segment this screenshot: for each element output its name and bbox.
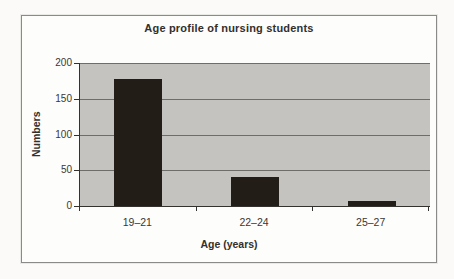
- chart-frame: Age profile of nursing students Numbers …: [21, 15, 437, 263]
- x-category-label-25-27: 25–27: [312, 216, 429, 228]
- plot-area: [79, 63, 430, 207]
- x-tick-mark: [196, 206, 197, 211]
- y-tick-label-50: 50: [22, 164, 72, 175]
- category-cell-22-24: [197, 63, 314, 206]
- bar-19-21: [114, 79, 162, 206]
- y-tick-label-100: 100: [22, 129, 72, 140]
- x-axis-labels: 19–21 22–24 25–27: [79, 216, 429, 228]
- x-tick-mark: [312, 206, 313, 211]
- x-category-label-19-21: 19–21: [79, 216, 196, 228]
- category-cell-25-27: [313, 63, 430, 206]
- x-category-label-22-24: 22–24: [196, 216, 313, 228]
- x-axis-title: Age (years): [22, 238, 436, 250]
- y-tick-label-0: 0: [22, 200, 72, 211]
- category-cell-19-21: [80, 63, 197, 206]
- x-tick-mark: [79, 206, 80, 211]
- bar-22-24: [231, 177, 279, 206]
- bar-25-27: [348, 201, 396, 206]
- chart-title: Age profile of nursing students: [22, 22, 436, 34]
- y-tick-label-200: 200: [22, 57, 72, 68]
- y-tick-label-150: 150: [22, 93, 72, 104]
- x-tick-mark: [428, 206, 429, 211]
